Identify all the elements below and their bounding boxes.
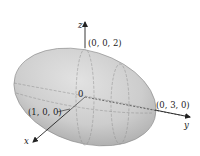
point-x-label: (1, 0, 0) <box>28 107 62 117</box>
point-y-label: (0, 3, 0) <box>156 100 190 110</box>
point-z-label: (0, 0, 2) <box>88 38 122 48</box>
x-axis-label: x <box>24 136 29 146</box>
ellipsoid-diagram: z (0, 0, 2) 0 (0, 3, 0) y (1, 0, 0) x <box>0 0 200 156</box>
y-axis-outer <box>155 110 190 117</box>
y-axis-label: y <box>183 120 189 130</box>
origin-label: 0 <box>78 89 83 99</box>
z-axis-label: z <box>77 20 83 30</box>
